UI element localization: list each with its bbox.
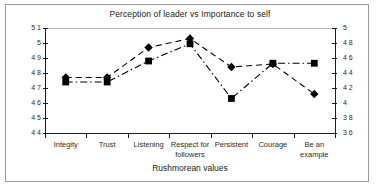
x-tick <box>128 133 129 138</box>
y-tick-label-left: 4 5 <box>19 114 41 121</box>
x-axis-label: Be an example <box>290 140 338 160</box>
data-point-marker <box>227 63 235 71</box>
y-tick-label-left: 4 4 <box>19 129 41 136</box>
x-axis <box>45 133 335 134</box>
y-tick-label-right: 4 2 <box>343 84 353 91</box>
y-tick-label-left: 5 <box>19 39 41 46</box>
data-point-marker <box>187 40 194 47</box>
x-tick <box>252 133 253 138</box>
y-tick-label-left: 4 9 <box>19 54 41 61</box>
x-axis-title: Rushmorean values <box>0 163 380 173</box>
x-tick <box>86 133 87 138</box>
data-point-marker <box>104 79 111 86</box>
y-tick-label-left: 4 7 <box>19 84 41 91</box>
data-point-marker <box>144 43 152 51</box>
y-tick-label-left: 4 8 <box>19 69 41 76</box>
data-point-marker <box>62 79 69 86</box>
data-point-marker <box>311 60 318 67</box>
chart-title: Perception of leader vs Importance to se… <box>0 9 380 19</box>
x-tick <box>45 133 46 138</box>
x-tick <box>211 133 212 138</box>
chart-figure: Perception of leader vs Importance to se… <box>0 0 380 195</box>
data-point-marker <box>269 60 276 67</box>
x-tick <box>294 133 295 138</box>
y-tick-label-right: 4 4 <box>343 69 353 76</box>
y-tick-label-right: 3 6 <box>343 129 353 136</box>
x-tick <box>335 133 336 138</box>
y-tick-label-right: 4 6 <box>343 54 353 61</box>
plot-area: 5 154 94 84 74 64 54 4 54 84 64 44 243 8… <box>45 28 335 133</box>
y-tick-label-left: 5 1 <box>19 24 41 31</box>
y-tick-label-right: 3 8 <box>343 114 353 121</box>
y-tick-label-right: 4 8 <box>343 39 353 46</box>
x-tick <box>169 133 170 138</box>
data-point-marker <box>145 58 152 65</box>
y-tick-label-right: 5 <box>343 24 347 31</box>
series-lines <box>45 28 335 133</box>
y-tick-label-left: 4 6 <box>19 99 41 106</box>
data-point-marker <box>310 90 318 98</box>
series-line <box>66 44 315 99</box>
data-point-marker <box>228 95 235 102</box>
y-tick-label-right: 4 <box>343 99 347 106</box>
